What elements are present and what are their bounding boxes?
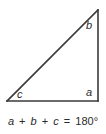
angle-label-b: b (86, 20, 92, 31)
triangle-diagram: a b c (0, 0, 106, 110)
degree-symbol-icon: ° (94, 115, 98, 127)
angle-label-c: c (17, 89, 23, 100)
equation-plus-1: + (19, 115, 25, 127)
triangle-angle-sum-figure: a b c a + b + c = 180° (0, 0, 106, 134)
equation-equals-sign: = (64, 115, 70, 127)
equation-term-c: c (53, 115, 59, 127)
equation-value: 180 (75, 115, 93, 127)
angle-sum-equation: a + b + c = 180° (0, 114, 106, 128)
equation-term-a: a (8, 115, 14, 127)
equation-term-b: b (31, 115, 37, 127)
angle-label-a: a (86, 87, 92, 98)
equation-plus-2: + (42, 115, 48, 127)
